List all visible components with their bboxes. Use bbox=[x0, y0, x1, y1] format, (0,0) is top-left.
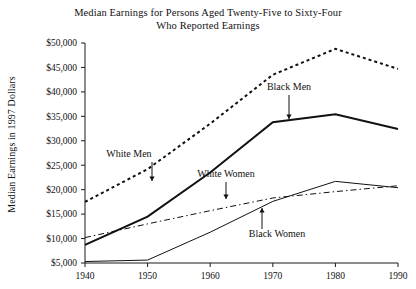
y-tick-group: $5,000$10,000$15,000$20,000$25,000$30,00… bbox=[46, 38, 85, 268]
annotation-label-white-men: White Men bbox=[106, 148, 151, 159]
annotation-arrow-head bbox=[259, 208, 264, 213]
y-axis: $5,000$10,000$15,000$20,000$25,000$30,00… bbox=[46, 38, 85, 268]
y-tick-label: $50,000 bbox=[46, 38, 77, 48]
y-tick-label: $20,000 bbox=[46, 185, 77, 195]
y-tick-label: $30,000 bbox=[46, 136, 77, 146]
y-tick-label: $45,000 bbox=[46, 63, 77, 73]
series-line-black-women bbox=[85, 181, 398, 261]
annotation-group: White MenBlack MenWhite WomenBlack Women bbox=[106, 81, 311, 239]
annotation-arrow-head bbox=[223, 195, 228, 200]
annotation-arrow-head bbox=[286, 115, 291, 120]
x-tick-label: 1980 bbox=[326, 271, 345, 281]
y-tick-label: $5,000 bbox=[51, 258, 77, 268]
y-tick-label: $10,000 bbox=[46, 234, 77, 244]
x-tick-label: 1960 bbox=[201, 271, 220, 281]
annotation-label-white-women: White Women bbox=[197, 168, 255, 179]
x-tick-group: 194019501960197019801990 bbox=[76, 263, 408, 281]
x-tick-label: 1990 bbox=[389, 271, 408, 281]
x-tick-label: 1940 bbox=[76, 271, 95, 281]
y-tick-label: $40,000 bbox=[46, 87, 77, 97]
series-line-black-men bbox=[85, 114, 398, 245]
chart-plot-area: $5,000$10,000$15,000$20,000$25,000$30,00… bbox=[0, 0, 416, 289]
annotation-arrow-head bbox=[149, 177, 154, 182]
x-axis: 194019501960197019801990 bbox=[76, 263, 408, 281]
y-tick-label: $25,000 bbox=[46, 161, 77, 171]
annotation-label-black-men: Black Men bbox=[267, 81, 311, 92]
annotation-label-black-women: Black Women bbox=[249, 228, 306, 239]
series-line-white-women bbox=[85, 186, 398, 238]
x-tick-label: 1970 bbox=[263, 271, 282, 281]
chart-container: Median Earnings for Persons Aged Twenty-… bbox=[0, 0, 416, 289]
y-tick-label: $15,000 bbox=[46, 209, 77, 219]
x-tick-label: 1950 bbox=[138, 271, 157, 281]
y-tick-label: $35,000 bbox=[46, 112, 77, 122]
